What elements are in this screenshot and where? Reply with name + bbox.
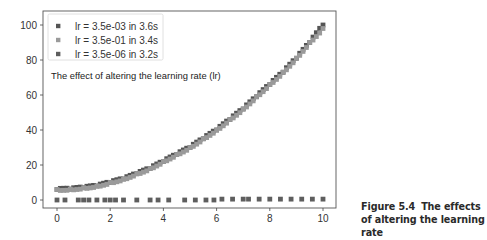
x-axis-ticks: 0246810	[54, 208, 329, 224]
data-point	[55, 198, 60, 203]
data-point	[182, 198, 187, 203]
data-point	[102, 198, 107, 203]
data-point	[321, 26, 326, 31]
legend-label: lr = 3.5e-06 in 3.2s	[75, 49, 158, 60]
legend-marker	[56, 52, 60, 56]
legend: lr = 3.5e-03 in 3.6slr = 3.5e-01 in 3.4s…	[48, 14, 163, 60]
data-point	[289, 197, 294, 202]
data-point	[257, 197, 262, 202]
data-point	[121, 198, 126, 203]
data-point	[108, 198, 113, 203]
data-point	[220, 197, 225, 202]
data-point	[63, 198, 68, 203]
x-tick-label: 0	[54, 213, 60, 224]
x-tick-label: 6	[214, 213, 220, 224]
series-2	[55, 197, 326, 203]
x-tick-label: 2	[107, 213, 113, 224]
chart-annotation: The effect of altering the learning rate…	[51, 70, 221, 81]
data-point	[278, 197, 283, 202]
data-point	[95, 198, 100, 203]
y-tick-label: 20	[26, 160, 38, 171]
data-point	[87, 198, 92, 203]
legend-marker	[56, 38, 60, 42]
x-tick-label: 10	[317, 213, 329, 224]
y-tick-label: 100	[20, 20, 37, 31]
y-tick-label: 60	[26, 90, 38, 101]
data-point	[310, 197, 315, 202]
data-point	[267, 197, 272, 202]
data-point	[277, 74, 282, 79]
data-point	[230, 197, 235, 202]
data-point	[251, 98, 256, 103]
data-point	[212, 198, 217, 203]
data-point	[134, 198, 139, 203]
y-tick-label: 80	[26, 55, 38, 66]
data-point	[241, 197, 246, 202]
data-point	[317, 31, 322, 36]
figure-caption: Figure 5.4The effects of altering the le…	[361, 200, 487, 239]
data-point	[291, 60, 296, 65]
data-point	[299, 197, 304, 202]
y-tick-label: 0	[31, 195, 37, 206]
data-point	[264, 86, 269, 91]
figure-caption-label: Figure 5.4	[361, 201, 415, 212]
data-point	[148, 198, 153, 203]
data-point	[193, 198, 198, 203]
data-point	[156, 198, 161, 203]
data-point	[76, 198, 81, 203]
data-point	[204, 198, 209, 203]
data-point	[81, 198, 86, 203]
legend-marker	[56, 24, 60, 28]
data-point	[304, 45, 309, 50]
y-axis-ticks: 020406080100	[20, 20, 43, 206]
data-point	[113, 198, 118, 203]
y-tick-label: 40	[26, 125, 38, 136]
data-point	[246, 197, 251, 202]
legend-label: lr = 3.5e-03 in 3.6s	[75, 21, 158, 32]
legend-label: lr = 3.5e-01 in 3.4s	[75, 35, 158, 46]
data-point	[166, 198, 171, 203]
data-point	[321, 197, 326, 202]
x-tick-label: 4	[161, 213, 167, 224]
x-tick-label: 8	[267, 213, 273, 224]
